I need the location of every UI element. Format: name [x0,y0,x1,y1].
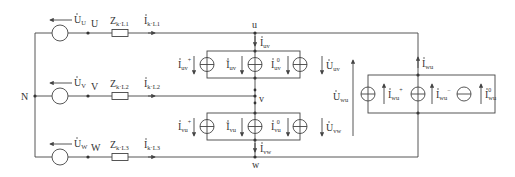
svg-text:UV: UV [74,77,86,89]
circuit-diagram: N UU U Zk·L1 Ik·L1 UV V Zk·L2 Ik·L2 [0,0,515,177]
current-vw-label: Ivw [260,143,272,155]
svg-text:Ik·L1: Ik·L1 [144,15,160,27]
current-source-wu-zero [457,87,471,101]
svg-text:UU: UU [74,14,86,26]
node-u-label: u [252,19,257,30]
phase-w-labels: UW W Zk·L3 Ik·L3 [74,138,160,153]
wu-branch [361,33,495,157]
voltage-wu-label: Uwu [333,91,349,103]
impedance-u [112,30,128,37]
vu-source-box [194,113,322,140]
svg-text:Zk·L2: Zk·L2 [110,78,129,90]
central-bus [253,31,256,158]
node-v-label: v [259,93,264,104]
voltage-uv-label: Uuv [326,60,340,72]
voltage-source-w [52,149,68,165]
svg-text:Ik·L2: Ik·L2 [144,78,160,90]
svg-text:U: U [91,18,99,29]
node-w-label: w [252,159,260,170]
voltage-source-u [52,25,68,41]
svg-text:V: V [91,81,99,92]
neutral-bus [33,33,36,157]
impedance-v [112,93,128,100]
voltage-source-v [52,88,68,104]
svg-text:Ik·L3: Ik·L3 [144,139,160,151]
phase-v-labels: UV V Zk·L2 Ik·L2 [74,77,160,92]
current-uv-label: Iuv [260,37,271,49]
uv-source-box [194,51,322,78]
svg-text:W: W [91,142,101,153]
neutral-label: N [21,91,28,102]
svg-text:Zk·L1: Zk·L1 [110,15,129,27]
svg-text:UW: UW [74,138,88,150]
svg-text:Zk·L3: Zk·L3 [110,139,129,151]
phase-u-labels: UU U Zk·L1 Ik·L1 [74,14,160,29]
voltage-vw-label: Uvw [326,122,341,134]
impedance-w [112,154,128,161]
current-wu-label: Iwu [422,58,434,70]
